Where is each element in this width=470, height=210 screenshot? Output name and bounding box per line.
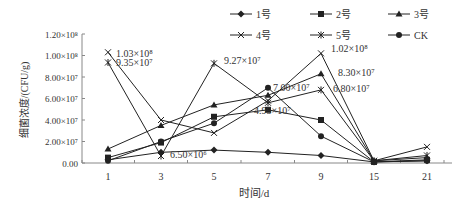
x-tick-label: 5 — [212, 171, 217, 182]
data-label: 4.95×10⁷ — [254, 105, 291, 116]
legend: 1号2号3号4号5号CK — [230, 9, 429, 41]
y-tick-label: 0.00 — [62, 159, 78, 169]
svg-text:2号: 2号 — [336, 9, 351, 20]
svg-text:5号: 5号 — [336, 30, 351, 41]
legend-item-4号: 4号 — [230, 30, 271, 41]
svg-text:4号: 4号 — [256, 30, 271, 41]
data-label: 8.30×10⁷ — [338, 67, 375, 78]
annotations: 1.03×10⁸9.35×10⁷6.50×10⁶9.27×10⁷7.00×10⁷… — [116, 43, 375, 160]
y-tick-label: 8.00×10⁷ — [45, 73, 78, 83]
data-label: 6.80×10⁷ — [333, 83, 370, 94]
svg-text:1号: 1号 — [256, 9, 271, 20]
data-label: 9.35×10⁷ — [116, 57, 153, 68]
y-tick-label: 4.00×10⁷ — [45, 116, 78, 126]
legend-item-2号: 2号 — [310, 9, 351, 20]
y-tick-label: 2.00×10⁷ — [45, 137, 78, 147]
x-tick-label: 15 — [369, 171, 379, 182]
data-label: 1.02×10⁸ — [331, 43, 368, 54]
legend-item-1号: 1号 — [230, 9, 271, 20]
data-label: 6.50×10⁶ — [170, 149, 207, 160]
x-tick-label: 21 — [422, 171, 432, 182]
data-label: 9.27×10⁷ — [224, 55, 261, 66]
bacteria-concentration-chart: 0.002.00×10⁷4.00×10⁷6.00×10⁷8.00×10⁷1.00… — [0, 0, 470, 210]
y-tick-label: 6.00×10⁷ — [45, 94, 78, 104]
x-axis-label: 时间/d — [239, 187, 270, 199]
y-axis-label: 细菌浓度/(CFU/g) — [18, 62, 31, 139]
legend-item-3号: 3号 — [388, 9, 429, 20]
x-tick-label: 1 — [106, 171, 111, 182]
x-tick-label: 3 — [159, 171, 164, 182]
y-tick-label: 1.20×10⁸ — [45, 30, 78, 40]
y-tick-label: 1.00×10⁸ — [45, 51, 78, 61]
x-tick-label: 7 — [266, 171, 271, 182]
svg-text:3号: 3号 — [414, 9, 429, 20]
legend-item-5号: 5号 — [310, 30, 351, 41]
x-tick-label: 9 — [319, 171, 324, 182]
data-label: 7.00×10⁷ — [273, 82, 310, 93]
legend-item-CK: CK — [388, 30, 429, 41]
svg-text:CK: CK — [414, 30, 429, 41]
